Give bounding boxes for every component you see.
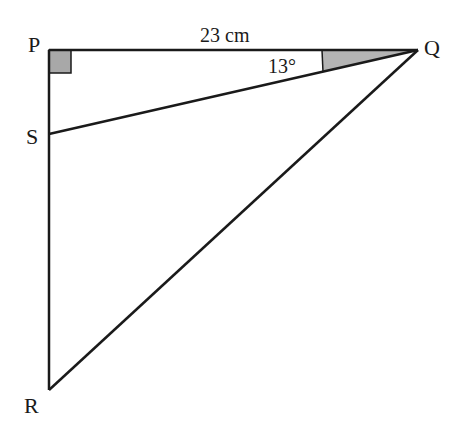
vertex-label-S: S	[26, 124, 38, 149]
segment-QS	[49, 50, 418, 134]
vertex-label-Q: Q	[424, 35, 440, 60]
vertex-label-R: R	[24, 393, 39, 418]
triangle-diagram: P Q S R 23 cm 13°	[0, 0, 464, 429]
angle-arc	[322, 50, 323, 72]
angle-label-Q: 13°	[268, 55, 296, 77]
right-angle-marker	[49, 50, 71, 73]
vertex-label-P: P	[28, 32, 40, 57]
length-label-PQ: 23 cm	[200, 24, 250, 46]
side-QR	[49, 50, 418, 390]
